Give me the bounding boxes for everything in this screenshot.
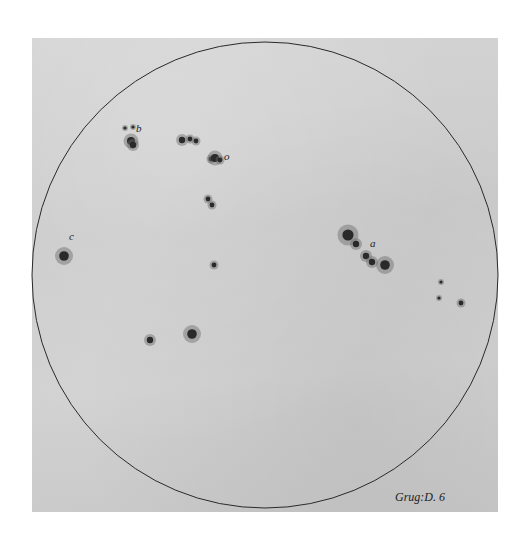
spot-label-c: c (69, 230, 74, 242)
group-a (338, 225, 395, 275)
sunspots (55, 124, 466, 346)
spot-label-o: o (224, 150, 230, 162)
group-c (55, 247, 73, 265)
group-right (436, 279, 466, 308)
plate-caption: Grug:D. 6 (395, 490, 445, 505)
spot-label-b: b (136, 122, 142, 134)
group-top-center (176, 134, 201, 146)
solar-disk-outline (32, 42, 498, 508)
group-o (207, 151, 225, 166)
spot-label-a: a (370, 237, 376, 249)
spot-labels: boca (69, 122, 376, 249)
group-center-small (204, 195, 217, 210)
group-lower-left (144, 334, 156, 346)
group-lower-mid (183, 325, 201, 343)
group-center-faint (210, 261, 219, 270)
solar-disk-drawing: boca (0, 0, 507, 545)
